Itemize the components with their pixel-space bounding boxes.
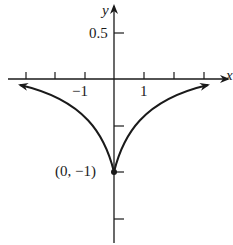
curve-right (114, 85, 208, 172)
x-ticks (26, 72, 204, 79)
x-axis-label: x (226, 68, 233, 83)
y-ticks (114, 33, 124, 219)
curve-left (20, 85, 114, 172)
x-tick-label-neg1: −1 (72, 84, 88, 99)
cusp-point (111, 169, 117, 175)
y-tick-label-0.5: 0.5 (89, 26, 108, 41)
graph: y x 0.5 −1 1 (0, −1) (0, 0, 233, 245)
plot-area (0, 0, 233, 245)
y-axis-label: y (102, 3, 109, 18)
x-tick-label-1: 1 (140, 84, 148, 99)
point-label: (0, −1) (55, 164, 96, 179)
